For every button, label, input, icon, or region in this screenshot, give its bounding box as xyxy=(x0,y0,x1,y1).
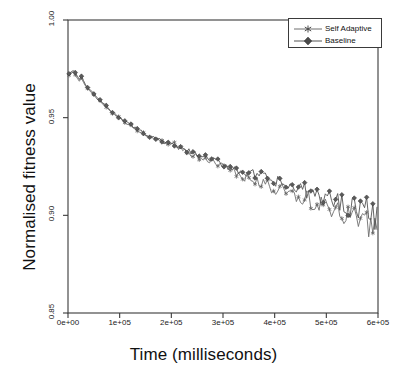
legend-label-baseline: Baseline xyxy=(325,35,356,47)
chart-legend[interactable]: Self Adaptive Baseline xyxy=(288,18,382,48)
legend-item-self-adaptive[interactable]: Self Adaptive xyxy=(293,23,381,35)
legend-label-self-adaptive: Self Adaptive xyxy=(325,23,372,35)
x-tick-label: 4e+05 xyxy=(253,318,297,327)
y-tick-label: 0.85 xyxy=(47,299,56,325)
y-tick-label: 0.90 xyxy=(47,201,56,227)
asterisk-marker-icon xyxy=(293,23,323,35)
x-tick-label: 3e+05 xyxy=(201,318,245,327)
chart-figure: Time (milliseconds) Normalised fitness v… xyxy=(0,0,407,386)
filled-diamond-marker-icon xyxy=(293,35,323,47)
y-axis-ticks xyxy=(63,20,68,313)
y-tick-label: 1.00 xyxy=(47,6,56,32)
x-tick-label: 5e+05 xyxy=(304,318,348,327)
y-axis-title: Normalised fitness value xyxy=(20,27,40,327)
x-tick-label: 1e+05 xyxy=(98,318,142,327)
x-tick-label: 6e+05 xyxy=(356,318,400,327)
x-tick-label: 2e+05 xyxy=(149,318,193,327)
y-tick-label: 0.95 xyxy=(47,103,56,129)
legend-item-baseline[interactable]: Baseline xyxy=(293,35,381,47)
x-axis-title: Time (milliseconds) xyxy=(0,345,407,365)
series-line-self-adaptive xyxy=(67,72,377,237)
plot-canvas xyxy=(0,0,407,386)
series-line-baseline xyxy=(67,70,377,229)
